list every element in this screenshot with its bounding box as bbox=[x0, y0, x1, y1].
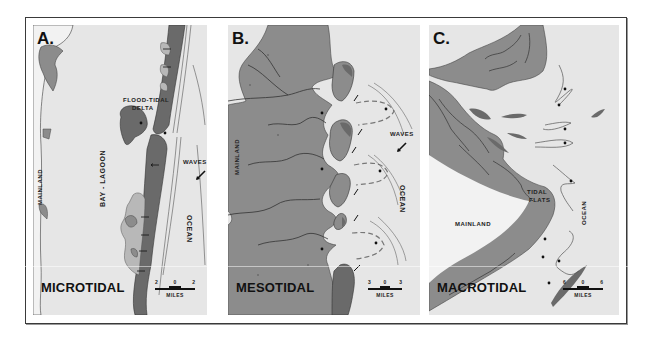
ocean-label: OCEAN bbox=[186, 215, 193, 243]
mainland-label: MAINLAND bbox=[455, 221, 491, 227]
tidal-flats-label: TIDAL bbox=[527, 189, 547, 195]
scale-unit: MILES bbox=[368, 292, 402, 298]
figure-frame: A. FLOOD-TIDAL DELTA MAINLAND BAY - LAGO… bbox=[25, 17, 627, 324]
scale-right: 2 bbox=[192, 279, 195, 285]
scale-unit: MILES bbox=[563, 292, 603, 298]
mainland-label: MAINLAND bbox=[37, 169, 43, 205]
panel-macrotidal: C. TIDAL FLATS MAINLAND OCEAN MACROTIDAL… bbox=[429, 25, 619, 315]
waves-label: WAVES bbox=[390, 131, 414, 137]
microtidal-map bbox=[33, 25, 207, 315]
tidal-flats-label-2: FLATS bbox=[529, 197, 550, 203]
ocean-label: OCEAN bbox=[399, 185, 406, 213]
waves-label: WAVES bbox=[183, 159, 207, 165]
macrotidal-map bbox=[429, 25, 619, 315]
scale-left: 2 bbox=[155, 279, 158, 285]
scale-unit: MILES bbox=[155, 292, 195, 298]
scale-right: 6 bbox=[600, 279, 603, 285]
mesotidal-map bbox=[228, 25, 420, 315]
scale-mid: 0 bbox=[582, 279, 585, 285]
regime-label: MESOTIDAL bbox=[236, 280, 314, 295]
panel-letter: B. bbox=[232, 29, 249, 49]
scale-bar: 606 MILES bbox=[563, 279, 603, 301]
scale-bar: 303 MILES bbox=[368, 279, 402, 301]
regime-label: MACROTIDAL bbox=[437, 280, 526, 295]
ocean-label: OCEAN bbox=[581, 201, 587, 225]
scale-left: 3 bbox=[368, 279, 371, 285]
scan-seam bbox=[0, 266, 648, 267]
regime-label: MICROTIDAL bbox=[41, 280, 125, 295]
scale-mid: 0 bbox=[174, 279, 177, 285]
panel-mesotidal: B. MAINLAND WAVES OCEAN MESOTIDAL 303 MI… bbox=[228, 25, 420, 315]
scale-right: 3 bbox=[399, 279, 402, 285]
panel-letter: A. bbox=[37, 29, 54, 49]
flood-tidal-delta-label: FLOOD-TIDAL bbox=[123, 97, 169, 103]
bay-lagoon-label: BAY - LAGOON bbox=[99, 150, 106, 207]
panel-letter: C. bbox=[433, 29, 450, 49]
flood-tidal-delta-label-2: DELTA bbox=[132, 105, 154, 111]
scale-mid: 0 bbox=[384, 279, 387, 285]
mainland-label: MAINLAND bbox=[234, 139, 240, 175]
scale-left: 6 bbox=[563, 279, 566, 285]
panel-microtidal: A. FLOOD-TIDAL DELTA MAINLAND BAY - LAGO… bbox=[33, 25, 207, 315]
scale-bar: 202 MILES bbox=[155, 279, 195, 301]
